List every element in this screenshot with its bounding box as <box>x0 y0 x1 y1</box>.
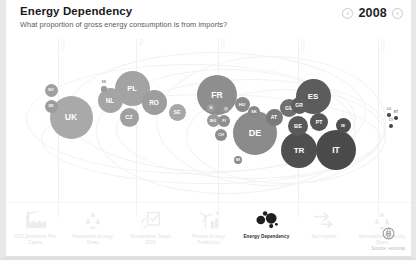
bubble-fi[interactable]: FI <box>218 115 230 127</box>
bubble-mt[interactable]: MT <box>394 116 398 120</box>
page-subtitle: What proportion of gross energy consumpt… <box>20 20 227 29</box>
bubble-ee[interactable]: EE <box>101 86 106 91</box>
bubble-fr[interactable]: FR <box>197 75 237 115</box>
bubble-at[interactable]: AT <box>266 109 283 126</box>
arrows-right-icon <box>312 208 336 232</box>
prev-year-button[interactable]: ‹ <box>342 8 353 19</box>
tool-renewable-energy-share[interactable]: Renewable Energy Share <box>64 205 122 257</box>
bubble-se[interactable]: SE <box>169 104 186 121</box>
app-window: Energy Dependency What proportion of gro… <box>0 0 416 260</box>
windmill-icon <box>197 208 221 232</box>
tool-label-primary-energy-production: Primary Energy Production <box>183 234 235 245</box>
bubble-cz[interactable]: CZ <box>120 108 139 127</box>
tool-label-co2-emissions-per-capita: CO2 Emissions Per Capita <box>9 234 61 245</box>
gridline-label: 50% <box>220 39 225 49</box>
tool-net-imports[interactable]: Net Imports <box>295 205 353 257</box>
tool-renewables-target-2020[interactable]: Renewables Target 2020 <box>122 205 180 257</box>
bubble-si[interactable]: SI <box>207 104 215 112</box>
source-attribution[interactable]: Source: eurostat <box>371 226 405 251</box>
tool-co2-emissions-per-capita[interactable]: CO2 Emissions Per Capita <box>6 205 64 257</box>
gridline-extension <box>378 203 379 217</box>
bubble-label-mt: MT <box>394 110 399 114</box>
tool-energy-dependency[interactable]: Energy Dependency <box>237 205 295 257</box>
factory-icon <box>22 208 48 232</box>
bubble-chart[interactable]: -50%0%50%100%150% DEUKFRITTRPLESNLROBECZ… <box>6 34 411 206</box>
bubble-cy[interactable]: CY <box>389 124 393 128</box>
bubble-no[interactable]: NO <box>45 84 58 97</box>
bubble-label-cy: CY <box>389 118 393 122</box>
header: Energy Dependency What proportion of gro… <box>6 0 411 34</box>
bubble-be[interactable]: BE <box>288 116 308 136</box>
tool-label-net-imports: Net Imports <box>312 234 337 240</box>
bubble-label-ee: EE <box>102 80 106 84</box>
bubble-ch[interactable]: CH <box>215 129 227 141</box>
bubble-label-lu: LU <box>387 107 391 111</box>
tool-label-renewable-energy-share: Renewable Energy Share <box>67 234 119 245</box>
bubble-it[interactable]: IT <box>316 130 356 170</box>
gridline-label: 0% <box>138 39 143 46</box>
page-title: Energy Dependency <box>20 5 132 17</box>
current-year-label: 2008 <box>358 6 387 20</box>
recycle-icon <box>83 208 103 232</box>
tool-label-renewables-target-2020: Renewables Target 2020 <box>125 234 177 245</box>
source-label: Source: eurostat <box>371 246 405 251</box>
bubble-dk[interactable]: DK <box>45 100 58 113</box>
year-navigator: ‹ 2008 › <box>342 6 403 20</box>
bubbles-icon <box>253 208 279 232</box>
app-content: Energy Dependency What proportion of gro… <box>6 0 411 256</box>
bubble-pt[interactable]: PT <box>310 113 328 131</box>
bubble-hu[interactable]: HU <box>235 97 250 112</box>
checklist-icon <box>140 208 162 232</box>
bubble-ie[interactable]: IE <box>336 118 351 133</box>
gridline-label: 150% <box>380 39 385 52</box>
tool-primary-energy-production[interactable]: Primary Energy Production <box>180 205 238 257</box>
gridline-label: -50% <box>60 39 65 51</box>
gridline-extension <box>58 203 59 217</box>
gridline-extension <box>298 203 299 217</box>
bubble-lu[interactable]: LU <box>387 113 391 117</box>
next-year-button[interactable]: › <box>392 8 403 19</box>
gridline-extension <box>218 203 219 217</box>
tool-label-energy-dependency: Energy Dependency <box>243 234 289 240</box>
gridline-extension <box>136 203 137 217</box>
bubble-tr[interactable]: TR <box>281 132 317 168</box>
bubble-sk[interactable]: SK <box>248 106 260 118</box>
bubble-ro[interactable]: RO <box>142 90 167 115</box>
metric-tool-list: CO2 Emissions Per Capita Renewable Energ… <box>6 205 411 257</box>
gridline-label: 100% <box>300 39 305 52</box>
eurostat-logo-icon <box>382 226 395 244</box>
bubble-gr[interactable]: GR <box>291 97 308 114</box>
metric-toolbar: CO2 Emissions Per Capita Renewable Energ… <box>6 202 411 256</box>
